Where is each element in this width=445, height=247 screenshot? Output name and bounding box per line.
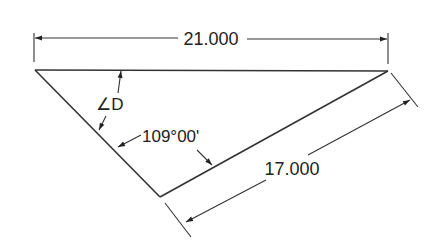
- extension-line-bottom: [165, 203, 191, 237]
- dimension-label-top: 21.000: [183, 29, 238, 49]
- angle-d-leader-bottom: [99, 116, 106, 130]
- dimension-label-side: 17.000: [264, 159, 319, 179]
- extension-line-top: [391, 73, 418, 107]
- angle-109-label: 109°00': [142, 127, 199, 146]
- angle-d-leader-top: [118, 71, 121, 93]
- angle-d-label: ∠D: [96, 95, 123, 114]
- triangle-outline: [35, 70, 388, 197]
- angle-109-leader-right: [197, 150, 212, 165]
- dimension-line-lower: [186, 180, 266, 222]
- dimension-17: [165, 73, 418, 237]
- dimension-line-upper: [308, 100, 410, 155]
- angle-109-leader-left: [118, 135, 141, 147]
- top-edge: [35, 70, 388, 71]
- triangle-drawing: 21.000 17.000 ∠D 109°00': [0, 0, 445, 247]
